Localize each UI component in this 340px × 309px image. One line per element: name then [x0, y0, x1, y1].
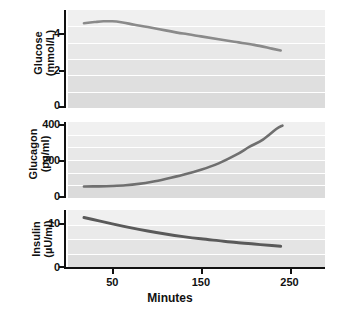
y-axis-label-glucose-line1: Glucose: [32, 3, 44, 103]
glucose-line-series: [68, 10, 325, 108]
x-tickmark-50: [112, 269, 114, 274]
y-tick-insulin-10: 10: [34, 218, 60, 229]
y-tickmark-glucagon-400: [59, 124, 65, 126]
y-tick-glucose-2: 2: [36, 65, 60, 76]
x-tickmark-150: [201, 269, 203, 274]
y-axis-line-insulin: [64, 210, 66, 268]
y-tick-glucagon-400: 400: [28, 119, 60, 130]
y-axis-label-glucose-line2: (mmol/L): [44, 3, 56, 103]
y-tickmark-glucose-4: [59, 33, 65, 35]
glucagon-line-series: [68, 122, 325, 198]
y-tickmark-glucagon-0: [59, 196, 65, 198]
chart-panel-glucagon: [68, 122, 325, 198]
y-tick-glucose-4: 4: [36, 28, 60, 39]
figure-canvas: Glucose (mmol/L) 4 2 0 Glucagon (pg/ml) …: [0, 0, 340, 309]
x-tick-label-150: 150: [181, 277, 221, 288]
y-axis-line-glucose: [64, 10, 66, 108]
y-axis-label-glucose: Glucose (mmol/L): [32, 3, 56, 103]
chart-panel-insulin: [68, 210, 325, 268]
insulin-curve: [84, 217, 281, 246]
y-tick-glucagon-200: 200: [28, 155, 60, 166]
y-tick-insulin-0: 0: [34, 262, 60, 273]
x-axis-label: Minutes: [0, 291, 340, 305]
y-axis-label-insulin: Insulin (µU/ml): [30, 189, 54, 289]
y-tickmark-glucagon-200: [59, 160, 65, 162]
x-tickmark-250: [290, 269, 292, 274]
insulin-line-series: [68, 210, 325, 268]
y-axis-label-insulin-line1: Insulin: [30, 189, 42, 289]
y-axis-label-insulin-line2: (µU/ml): [42, 189, 54, 289]
y-tickmark-glucose-2: [59, 70, 65, 72]
glucose-curve: [84, 21, 281, 50]
x-axis-line: [64, 267, 325, 269]
x-tick-label-250: 250: [270, 277, 310, 288]
glucagon-curve: [84, 126, 283, 187]
x-tick-label-50: 50: [92, 277, 132, 288]
y-tickmark-insulin-10: [59, 223, 65, 225]
y-tickmark-glucose-0: [59, 106, 65, 108]
chart-panel-glucose: [68, 10, 325, 108]
